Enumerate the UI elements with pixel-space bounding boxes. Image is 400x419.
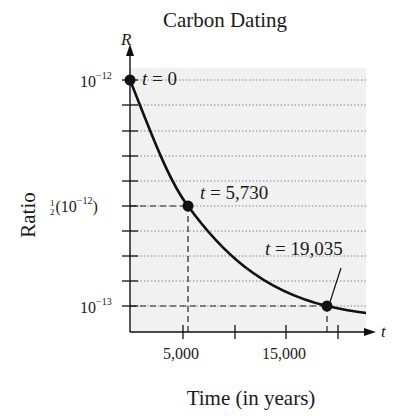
x-axis-var: t — [381, 322, 386, 342]
ytick-top: 10−12 — [80, 70, 112, 91]
point-t19035 — [322, 301, 333, 312]
y-axis-label: Ratio — [16, 192, 41, 238]
annotation-t5730: t = 5,730 — [200, 182, 268, 204]
xtick-15000: 15,000 — [262, 345, 306, 363]
x-axis-arrow-icon — [364, 328, 376, 336]
xtick-5000: 5,000 — [163, 345, 199, 363]
point-t0 — [125, 75, 136, 86]
annotation-t19035: t = 19,035 — [265, 238, 343, 260]
annotation-t0: t = 0 — [142, 68, 177, 90]
point-t5730 — [183, 201, 194, 212]
x-axis-label: Time (in years) — [187, 386, 316, 411]
y-axis-var: R — [121, 30, 131, 50]
ytick-bottom: 10−13 — [80, 296, 112, 317]
ytick-half: 12(10−12) — [50, 195, 98, 217]
